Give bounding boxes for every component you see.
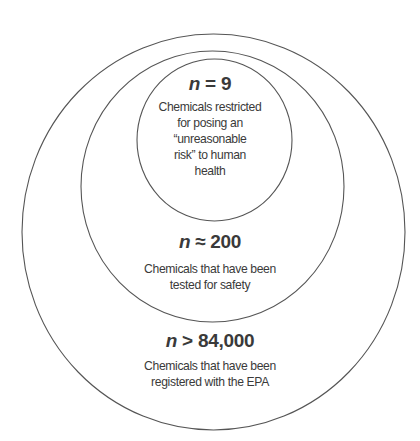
outer-description: Chemicals that have been registered with… (21, 358, 399, 390)
inner-count-op: = (205, 73, 216, 94)
middle-count-op: ≈ (195, 231, 205, 252)
inner-description-line: risk” to human (21, 147, 399, 163)
middle-count-var: n (179, 231, 190, 252)
middle-count-label: n ≈ 200 (0, 231, 420, 253)
middle-description: Chemicals that have been tested for safe… (21, 261, 399, 293)
middle-description-line: Chemicals that have been (21, 261, 399, 277)
inner-description-line: health (21, 163, 399, 179)
inner-count-label: n = 9 (0, 73, 420, 95)
inner-count-value: 9 (221, 73, 231, 94)
outer-count-label: n > 84,000 (0, 330, 420, 352)
inner-description-line: Chemicals restricted (21, 99, 399, 115)
inner-description-line: for posing an (21, 115, 399, 131)
outer-count-var: n (166, 330, 177, 351)
inner-description: Chemicals restricted for posing an “unre… (21, 99, 399, 179)
inner-description-line: “unreasonable (21, 131, 399, 147)
inner-count-var: n (189, 73, 200, 94)
middle-count-value: 200 (210, 231, 241, 252)
middle-description-line: tested for safety (21, 277, 399, 293)
outer-description-line: registered with the EPA (21, 374, 399, 390)
outer-count-op: > (182, 330, 193, 351)
outer-description-line: Chemicals that have been (21, 358, 399, 374)
outer-count-value: 84,000 (198, 330, 254, 351)
